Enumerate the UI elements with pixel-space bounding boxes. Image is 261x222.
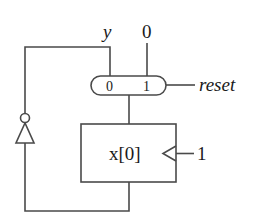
inverter-icon	[16, 114, 34, 144]
register-x0: x[0]	[81, 124, 176, 182]
register-label: x[0]	[109, 143, 141, 164]
mux-port-1-label: 1	[143, 79, 150, 94]
label-const-0: 0	[142, 21, 152, 42]
label-y: y	[101, 21, 112, 42]
mux-port-0-label: 0	[106, 79, 113, 94]
label-clock-1: 1	[197, 143, 207, 164]
label-reset: reset	[199, 74, 236, 95]
multiplexer: 0 1	[91, 76, 166, 95]
circuit-diagram: y 0 0 1 reset x[0] 1	[0, 0, 261, 222]
